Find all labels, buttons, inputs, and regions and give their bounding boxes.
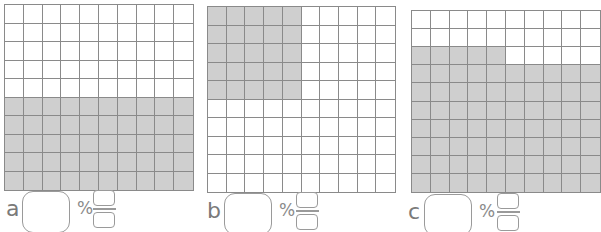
grid-cell [506,65,525,83]
grid-cell [137,135,156,154]
grid-cell [283,26,302,45]
fraction-numerator-input-b[interactable] [296,192,318,208]
grid-cell [118,116,137,135]
grid-cell [431,120,450,138]
grid-cell [61,5,80,24]
grid-cell [320,7,339,26]
grid-cell [61,24,80,43]
question-letter-c: c [408,199,420,224]
grid-cell [283,81,302,100]
grid-cell [137,61,156,80]
percent-input-b[interactable] [224,193,272,232]
grid-cell [581,138,600,156]
fraction-denominator-input-b[interactable] [296,214,318,230]
grid-cell [302,7,321,26]
grid-cell [376,44,395,63]
grid-cell [431,11,450,29]
grid-cell [525,120,544,138]
grid-cell [487,65,506,83]
grid-cell [358,44,377,63]
grid-cell [487,102,506,120]
grid-cell [80,61,99,80]
grid-cell [376,137,395,156]
grid-cell [468,11,487,29]
grid-cell [43,24,62,43]
grid-cell [5,5,24,24]
grid-cell [468,65,487,83]
grid-cell [525,102,544,120]
fraction-numerator-input-c[interactable] [497,193,519,209]
grid-cell [99,61,118,80]
grid-cell [99,135,118,154]
grid-cell [581,120,600,138]
grid-cell [99,24,118,43]
grid-cell [487,47,506,65]
grid-cell [24,153,43,172]
fraction-denominator-input-c[interactable] [497,215,519,231]
grid-cell [227,26,246,45]
grid-cell [24,79,43,98]
grid-cell [320,26,339,45]
grid-cell [506,83,525,101]
grid-cell [99,42,118,61]
grid-cell [5,79,24,98]
grid-cell [525,138,544,156]
grid-cell [5,135,24,154]
grid-cell [487,174,506,192]
grid-cell [5,61,24,80]
grid-cell [264,7,283,26]
grid-cell [468,120,487,138]
grid-cell [450,11,469,29]
grid-cell [227,7,246,26]
grid-cell [245,81,264,100]
grid-cell [544,120,563,138]
grid-cell [302,118,321,137]
grid-cell [43,61,62,80]
grid-cell [412,174,431,192]
grid-cell [174,116,193,135]
grid-cell [468,102,487,120]
fraction-denominator-input-a[interactable] [93,212,115,228]
grid-cell [581,65,600,83]
grid-cell [155,116,174,135]
grid-cell [174,153,193,172]
grid-cell [61,98,80,117]
percent-input-c[interactable] [424,194,472,232]
grid-cell [525,11,544,29]
grid-cell [227,44,246,63]
grid-cell [264,100,283,119]
grid-cell [174,61,193,80]
grid-cell [412,156,431,174]
grid-cell [264,81,283,100]
grid-cell [562,29,581,47]
grid-cell [487,83,506,101]
grid-cell [339,44,358,63]
fraction-b [296,192,320,230]
grid-cell [174,24,193,43]
grid-cell [43,79,62,98]
grid-cell [376,81,395,100]
fraction-a [93,190,117,228]
grid-cell [137,98,156,117]
grid-cell [43,116,62,135]
grid-cell [5,42,24,61]
grid-cell [412,47,431,65]
percent-input-a[interactable] [22,191,70,232]
grid-cell [208,100,227,119]
grid-cell [24,24,43,43]
grid-cell [320,81,339,100]
grid-cell [227,81,246,100]
grid-cell [525,156,544,174]
grid-cell [80,135,99,154]
grid-cell [358,7,377,26]
grid-cell [283,137,302,156]
grid-cell [118,24,137,43]
grid-cell [245,44,264,63]
grid-cell [450,65,469,83]
grid-cell [320,44,339,63]
grid-cell [99,79,118,98]
fraction-numerator-input-a[interactable] [93,190,115,206]
grid-cell [118,61,137,80]
grid-cell [581,83,600,101]
fraction-bar-b [296,210,319,212]
